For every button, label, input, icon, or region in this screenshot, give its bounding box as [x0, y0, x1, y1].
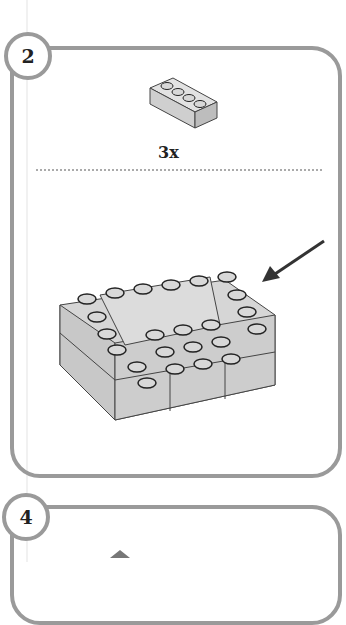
part-quantity: 3x — [158, 143, 179, 162]
brick-top-partial-icon — [110, 550, 130, 562]
step-number: 2 — [21, 45, 34, 67]
brick-1x4-icon — [145, 70, 225, 130]
step-4-number-badge: 4 — [2, 493, 50, 541]
step-number: 4 — [19, 506, 32, 528]
arrow-icon — [258, 238, 328, 288]
step-4-panel — [10, 505, 342, 625]
step-2-number-badge: 2 — [4, 32, 52, 80]
dotted-divider — [36, 169, 322, 171]
